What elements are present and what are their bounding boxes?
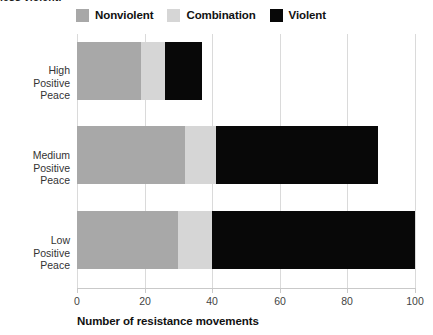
legend-item-nonviolent: Nonviolent — [76, 9, 153, 22]
x-tick-mark-100 — [415, 288, 416, 293]
y-axis-label-high-line2: Positive Peace — [2, 77, 70, 102]
x-tick-label-60: 60 — [274, 295, 286, 307]
y-axis-label-medium-line2: Positive Peace — [2, 162, 70, 187]
x-tick-label-0: 0 — [74, 295, 80, 307]
bar-segment-medium-nonviolent[interactable] — [77, 126, 185, 184]
y-axis-label-low: Low Positive Peace — [2, 234, 70, 272]
y-axis-labels: High Positive Peace Medium Positive Peac… — [0, 34, 70, 288]
bar-segment-low-combination[interactable] — [178, 211, 212, 269]
bar-segment-high-combination[interactable] — [141, 42, 165, 100]
legend-label-combination: Combination — [186, 9, 255, 21]
x-tick-label-80: 80 — [341, 295, 353, 307]
y-axis-label-high: High Positive Peace — [2, 64, 70, 102]
legend-item-combination: Combination — [167, 9, 255, 22]
bar-segment-low-nonviolent[interactable] — [77, 211, 178, 269]
bar-row-medium[interactable] — [77, 126, 378, 184]
x-tick-mark-60 — [280, 288, 281, 293]
caption-fragment: less violent. — [0, 0, 200, 5]
bar-segment-low-violent[interactable] — [212, 211, 415, 269]
legend-label-nonviolent: Nonviolent — [95, 9, 153, 21]
x-tick-mark-40 — [212, 288, 213, 293]
legend-item-violent: Violent — [270, 9, 326, 22]
chart-legend: Nonviolent Combination Violent — [76, 7, 340, 23]
bar-row-high[interactable] — [77, 42, 202, 100]
gridline-100 — [415, 34, 416, 288]
legend-swatch-violent — [270, 9, 283, 22]
x-tick-mark-20 — [145, 288, 146, 293]
legend-swatch-nonviolent — [76, 9, 89, 22]
bar-segment-medium-combination[interactable] — [185, 126, 215, 184]
bar-segment-high-violent[interactable] — [165, 42, 202, 100]
x-tick-label-20: 20 — [139, 295, 151, 307]
y-axis-label-low-line2: Positive Peace — [2, 247, 70, 272]
x-tick-label-100: 100 — [406, 295, 424, 307]
legend-label-violent: Violent — [289, 9, 326, 21]
bar-row-low[interactable] — [77, 211, 415, 269]
x-tick-mark-0 — [77, 288, 78, 293]
legend-swatch-combination — [167, 9, 180, 22]
plot-area — [77, 34, 416, 288]
y-axis-label-high-line1: High — [2, 64, 70, 77]
x-tick-label-40: 40 — [206, 295, 218, 307]
bar-segment-medium-violent[interactable] — [216, 126, 378, 184]
y-axis-label-low-line1: Low — [2, 234, 70, 247]
y-axis-label-medium: Medium Positive Peace — [2, 149, 70, 187]
bar-segment-high-nonviolent[interactable] — [77, 42, 141, 100]
x-axis-baseline — [77, 288, 416, 289]
x-tick-mark-80 — [347, 288, 348, 293]
y-axis-label-medium-line1: Medium — [2, 149, 70, 162]
x-axis-title: Number of resistance movements — [77, 315, 259, 327]
